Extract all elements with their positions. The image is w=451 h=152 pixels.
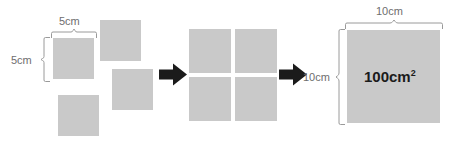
square-2	[100, 20, 141, 61]
square-4	[58, 95, 99, 136]
left-height-label: 5cm	[11, 55, 32, 66]
right-height-label: 10cm	[303, 72, 330, 83]
brace-side-right	[335, 28, 346, 127]
brace-side-left	[41, 36, 51, 83]
brace-top-left	[50, 29, 98, 39]
square-3	[112, 69, 153, 110]
grid-square-bottom-right	[235, 77, 277, 121]
square-1	[53, 38, 94, 79]
area-value-text: 100cm	[364, 68, 411, 85]
grid-square-top-left	[189, 29, 231, 73]
area-value-label: 100cm2	[364, 69, 416, 84]
brace-top-right	[344, 20, 444, 30]
area-exponent-text: 2	[411, 68, 416, 78]
left-width-label: 5cm	[59, 16, 80, 27]
arrow-1-icon	[159, 63, 187, 86]
right-width-label: 10cm	[376, 6, 403, 17]
grid-square-top-right	[235, 29, 277, 73]
diagram-canvas: 5cm 5cm 10cm 10cm 100cm2	[0, 0, 451, 152]
grid-square-bottom-left	[189, 77, 231, 121]
